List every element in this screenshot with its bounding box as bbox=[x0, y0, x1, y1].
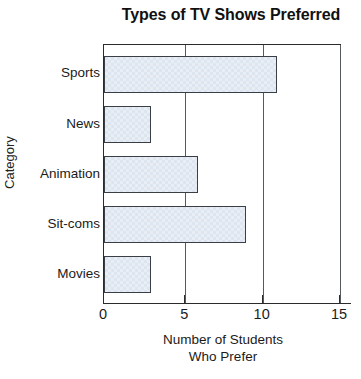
x-tick-0 bbox=[103, 295, 104, 304]
bar-animation bbox=[104, 156, 198, 193]
bar-texture bbox=[105, 57, 276, 92]
x-tick-label-0: 0 bbox=[83, 306, 123, 322]
bar-texture bbox=[105, 157, 197, 192]
x-tick-5 bbox=[184, 295, 185, 304]
x-axis-line bbox=[103, 303, 351, 304]
x-tick-label-15: 15 bbox=[319, 306, 359, 322]
bar-news bbox=[104, 106, 151, 143]
bar-sports bbox=[104, 56, 277, 93]
x-tick-10 bbox=[262, 295, 263, 304]
y-tick-label-movies: Movies bbox=[4, 267, 100, 281]
y-tick-label-news: News bbox=[4, 117, 100, 131]
bar-chart-figure: Types of TV Shows Preferred Category Spo… bbox=[0, 0, 361, 379]
x-tick-15 bbox=[339, 295, 340, 304]
x-axis-title-line1: Number of Students bbox=[103, 331, 343, 348]
x-axis-title-line2: Who Prefer bbox=[103, 348, 343, 365]
y-tick-label-sit-coms: Sit-coms bbox=[4, 217, 100, 231]
gridline-15 bbox=[340, 45, 341, 304]
y-axis-tick-labels: Sports News Animation Sit-coms Movies bbox=[0, 0, 100, 379]
y-tick-label-sports: Sports bbox=[4, 66, 100, 80]
bar-texture bbox=[105, 107, 150, 142]
bar-movies bbox=[104, 256, 151, 293]
plot-area bbox=[103, 44, 341, 303]
y-tick-label-animation: Animation bbox=[4, 167, 100, 181]
x-axis-title: Number of Students Who Prefer bbox=[103, 331, 343, 365]
chart-title: Types of TV Shows Preferred bbox=[103, 6, 359, 24]
x-tick-label-10: 10 bbox=[242, 306, 282, 322]
bar-sit-coms bbox=[104, 206, 246, 243]
x-tick-label-5: 5 bbox=[164, 306, 204, 322]
bar-texture bbox=[105, 207, 245, 242]
bar-texture bbox=[105, 257, 150, 292]
